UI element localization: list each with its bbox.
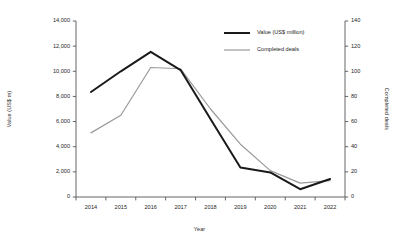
y-axis-right-tick-label: 60: [351, 118, 391, 124]
y-axis-left-title: Value (US$ m): [6, 79, 12, 139]
y-axis-left-tick-label: 4,000: [30, 143, 70, 149]
y-axis-right-tick-label: 120: [351, 43, 391, 49]
y-axis-right-tick-label: 20: [351, 168, 391, 174]
y-axis-left-tick-label: 6,000: [30, 118, 70, 124]
y-axis-left-tick-label: 0: [30, 193, 70, 199]
y-axis-left-tick-label: 8,000: [30, 93, 70, 99]
y-axis-right-tick-label: 40: [351, 143, 391, 149]
series-line-value: [91, 52, 330, 189]
x-axis-tick-label: 2022: [310, 204, 350, 210]
series-line-deals: [91, 68, 330, 184]
x-axis-title: Year: [0, 226, 399, 232]
y-axis-right-tick-label: 0: [351, 193, 391, 199]
y-axis-left-tick-label: 12,000: [30, 43, 70, 49]
y-axis-right-tick-label: 80: [351, 93, 391, 99]
y-axis-left-tick-label: 10,000: [30, 68, 70, 74]
chart-container: Value (US$ m) Completed deals Year 02,00…: [0, 0, 399, 242]
y-axis-left-tick-label: 2,000: [30, 168, 70, 174]
legend-label-deals: Completed deals: [257, 46, 299, 52]
y-axis-right-title: Completed deals: [384, 79, 390, 139]
y-axis-left-tick-label: 14,000: [30, 17, 70, 23]
legend-label-value: Value (US$ million): [257, 29, 304, 35]
y-axis-right-tick-label: 100: [351, 68, 391, 74]
y-axis-right-tick-label: 140: [351, 17, 391, 23]
